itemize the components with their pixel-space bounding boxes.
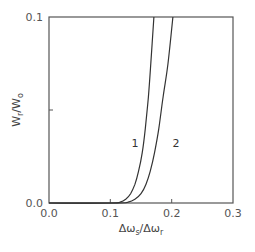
- y-axis-label: Wr/Wo: [10, 93, 25, 127]
- y-tick-label-0: 0.0: [26, 197, 44, 210]
- curve-2-label: 2: [173, 137, 180, 150]
- chart: 0.0 0.1 0.2 0.3 0.0 0.1 Δωs/Δωr Wr/Wo 1 …: [0, 0, 255, 252]
- curve-1-label: 1: [132, 137, 139, 150]
- y-tick-label-1: 0.1: [26, 11, 44, 24]
- plot-frame: [49, 17, 233, 203]
- x-tick-label-3: 0.3: [224, 207, 242, 220]
- x-axis-label: Δωs/Δωr: [119, 222, 164, 237]
- x-tick-label-1: 0.1: [102, 207, 120, 220]
- curve-2: [49, 17, 173, 203]
- x-tick-label-2: 0.2: [163, 207, 181, 220]
- curve-1: [49, 17, 154, 203]
